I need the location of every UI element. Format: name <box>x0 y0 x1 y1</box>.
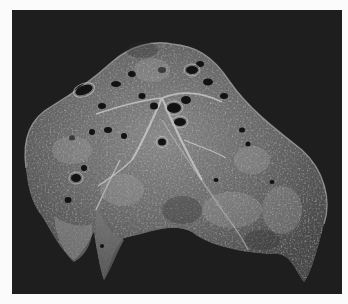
specimen-photo <box>12 10 342 294</box>
page <box>0 0 348 304</box>
lung-specimen-illustration <box>12 10 342 294</box>
